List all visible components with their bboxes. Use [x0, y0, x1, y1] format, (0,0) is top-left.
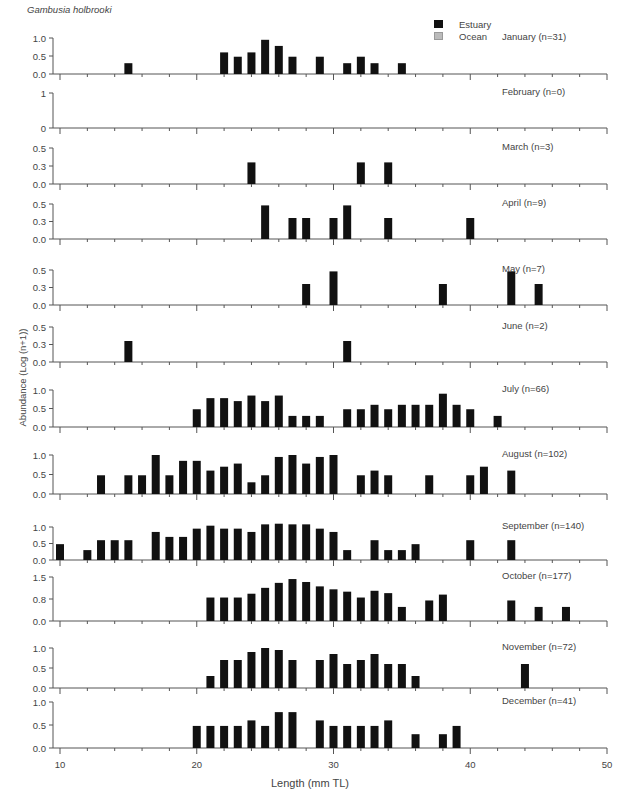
bar-estuary [343, 664, 351, 688]
bar-estuary [261, 588, 269, 621]
bar-estuary [234, 598, 242, 621]
panel-label: February (n=0) [502, 86, 565, 97]
bar-estuary [234, 464, 242, 494]
y-tick-label: 1 [41, 88, 46, 99]
bar-estuary [398, 664, 406, 688]
bar-estuary [371, 471, 379, 494]
bar-estuary [124, 341, 132, 362]
bar-estuary [466, 409, 474, 427]
bar-estuary [425, 405, 433, 427]
bar-estuary [247, 396, 255, 427]
bar-estuary [220, 598, 228, 621]
bar-estuary [507, 540, 515, 560]
bar-estuary [302, 284, 310, 305]
bar-estuary [466, 218, 474, 239]
bar-estuary [330, 271, 338, 305]
bar-estuary [466, 540, 474, 560]
bar-estuary [357, 598, 365, 621]
bar-estuary [330, 726, 338, 748]
bar-estuary [371, 540, 379, 560]
bar-estuary [343, 63, 351, 74]
bar-estuary [316, 416, 324, 427]
bar-estuary [261, 726, 269, 748]
y-tick-label: 0.5 [33, 538, 46, 549]
bar-estuary [302, 464, 310, 494]
bar-estuary [124, 540, 132, 560]
bar-estuary [261, 524, 269, 560]
panel-label: October (n=177) [502, 570, 571, 581]
bar-estuary [138, 475, 146, 494]
bar-estuary [220, 529, 228, 560]
y-tick-label: 0.5 [33, 469, 46, 480]
bar-estuary [425, 475, 433, 494]
x-tick-label: 20 [191, 759, 202, 770]
bar-estuary [398, 63, 406, 74]
bar-estuary [97, 475, 105, 494]
bar-estuary [357, 409, 365, 427]
bar-estuary [535, 607, 543, 621]
bar-estuary [247, 720, 255, 748]
bar-estuary [206, 676, 214, 688]
bar-estuary [275, 396, 283, 427]
bar-estuary [220, 398, 228, 427]
y-tick-label: 0.5 [33, 322, 46, 333]
bar-estuary [247, 52, 255, 74]
bar-estuary [179, 461, 187, 494]
bar-estuary [343, 341, 351, 362]
bar-estuary [384, 218, 392, 239]
bar-estuary [275, 457, 283, 494]
y-tick-label: 1.5 [33, 572, 46, 583]
bar-estuary [412, 405, 420, 427]
panel-label: June (n=2) [502, 320, 548, 331]
panel-label: August (n=102) [502, 448, 567, 459]
bar-estuary [247, 532, 255, 560]
bar-estuary [384, 550, 392, 560]
bar-estuary [316, 529, 324, 560]
bar-estuary [494, 416, 502, 427]
y-tick-label: 0.5 [33, 403, 46, 414]
bar-estuary [330, 589, 338, 621]
bar-estuary [316, 586, 324, 621]
bar-estuary [357, 475, 365, 494]
bar-estuary [206, 526, 214, 560]
bar-estuary [398, 405, 406, 427]
y-tick-label: 0.0 [33, 616, 46, 627]
bar-estuary [343, 550, 351, 560]
bar-estuary [247, 594, 255, 621]
bar-estuary [206, 598, 214, 621]
bar-estuary [439, 734, 447, 748]
y-tick-label: 0.3 [33, 339, 46, 350]
bar-estuary [371, 63, 379, 74]
bar-estuary [234, 726, 242, 748]
bar-estuary [261, 205, 269, 239]
bar-estuary [412, 544, 420, 560]
bar-estuary [439, 284, 447, 305]
bar-estuary [275, 46, 283, 74]
panel-label: May (n=7) [502, 263, 545, 274]
bar-estuary [507, 271, 515, 305]
y-tick-label: 1.0 [33, 450, 46, 461]
bar-estuary [111, 540, 119, 560]
bar-estuary [453, 405, 461, 427]
bar-estuary [480, 467, 488, 494]
y-tick-label: 0.5 [33, 663, 46, 674]
bar-estuary [288, 218, 296, 239]
bar-estuary [206, 726, 214, 748]
bar-estuary [247, 162, 255, 184]
bar-estuary [412, 734, 420, 748]
bar-estuary [439, 394, 447, 427]
bar-estuary [316, 57, 324, 74]
bar-estuary [535, 284, 543, 305]
bar-estuary [288, 524, 296, 560]
bar-estuary [384, 409, 392, 427]
bar-estuary [234, 660, 242, 688]
bar-estuary [288, 57, 296, 74]
bar-estuary [302, 582, 310, 621]
bar-estuary [371, 405, 379, 427]
bar-estuary [330, 218, 338, 239]
bar-estuary [466, 475, 474, 494]
bar-estuary [357, 162, 365, 184]
bar-estuary [330, 532, 338, 560]
bar-estuary [384, 593, 392, 621]
y-tick-label: 0.0 [33, 179, 46, 190]
